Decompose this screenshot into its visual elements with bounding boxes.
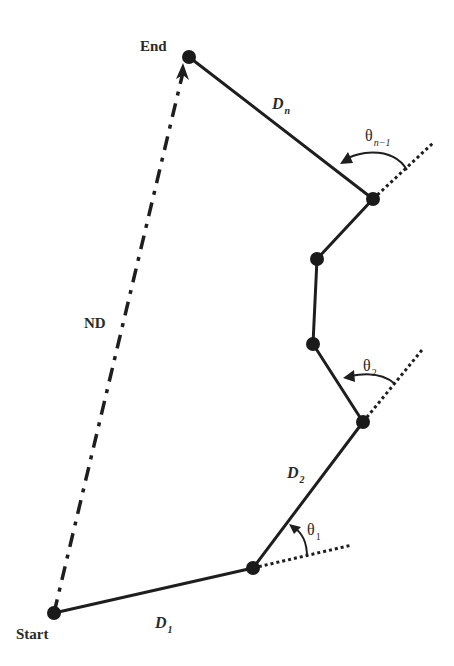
segment-4	[313, 259, 317, 344]
nodes	[47, 50, 380, 620]
arc-thetan	[345, 153, 407, 170]
angle-arcs	[293, 153, 407, 557]
theta1-label: θ1	[307, 521, 321, 542]
thetan-label: θn−1	[365, 127, 390, 148]
dn-label: Dn	[271, 95, 291, 116]
extension-lines	[253, 143, 433, 568]
net-displacement-line	[54, 68, 184, 613]
node-3	[306, 337, 320, 351]
d1-label: D1	[154, 614, 173, 635]
node-4	[310, 252, 324, 266]
node-1	[246, 561, 260, 575]
arrowhead-thetan	[340, 152, 353, 164]
d2-label: D2	[286, 464, 305, 485]
segment-dn	[189, 57, 373, 199]
segment-d1	[54, 568, 253, 613]
segment-3	[313, 344, 363, 422]
arrowhead-theta2	[343, 370, 355, 382]
node-2	[356, 415, 370, 429]
extension-theta2	[363, 350, 422, 422]
start-label: Start	[16, 626, 49, 642]
path-segments	[54, 57, 373, 613]
net-displacement-label: ND	[84, 315, 106, 331]
node-end	[182, 50, 196, 64]
extension-thetan	[373, 143, 433, 199]
node-start	[47, 606, 61, 620]
segment-5	[317, 199, 373, 259]
end-label: End	[140, 38, 167, 54]
path-diagram: Start End ND D1 D2 Dn θ1 θ2 θn−1	[0, 0, 454, 666]
node-5	[366, 192, 380, 206]
